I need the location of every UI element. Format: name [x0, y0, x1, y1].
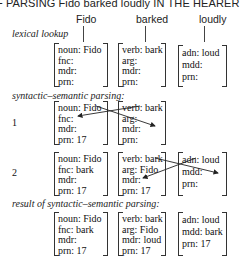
arrow-bark-to-mdd	[155, 158, 218, 173]
arrow-fido-to-arg	[96, 106, 155, 126]
arrow-bark-to-fnc	[78, 106, 140, 116]
copy-arrows	[0, 0, 242, 259]
